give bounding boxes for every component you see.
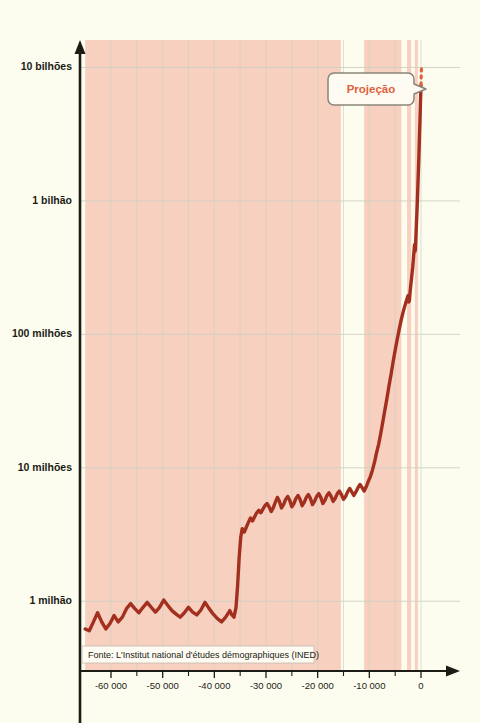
y-axis-tick-label: 1 milhão [29,594,72,606]
projection-callout-label: Projeção [347,83,396,95]
source-note-label: Fonte: L'Institut national d'études démo… [88,650,319,660]
x-axis-tick-label: -50 000 [147,680,179,691]
x-axis-tick-label: 0 [418,680,423,691]
source-note: Fonte: L'Institut national d'études démo… [82,646,319,663]
y-axis-tick-label: 1 bilhão [32,194,72,206]
x-axis-tick-label: -10 000 [353,680,385,691]
chart-canvas: 1 milhão10 milhões100 milhões1 bilhão10 … [0,0,480,723]
x-axis-tick-label: -30 000 [250,680,282,691]
era-moderna-band [415,40,418,671]
x-axis-tick-label: -60 000 [95,680,127,691]
shaded-bands-layer [85,40,418,671]
projection-line-layer [421,65,422,85]
x-axis-tick-label: -40 000 [198,680,230,691]
inovacoes-tecnicas-band [85,40,341,671]
population-log-chart: 1 milhão10 milhões100 milhões1 bilhão10 … [0,0,480,723]
x-axis-tick-label: -20 000 [302,680,334,691]
y-axis-tick-label: 100 milhões [12,327,72,339]
projection-callout[interactable]: Projeção [328,73,426,105]
y-axis-tick-label: 10 bilhões [21,60,73,72]
projection-curve [421,65,422,85]
y-axis-tick-label: 10 milhões [18,461,72,473]
revolucao-industrial-band [407,40,411,671]
